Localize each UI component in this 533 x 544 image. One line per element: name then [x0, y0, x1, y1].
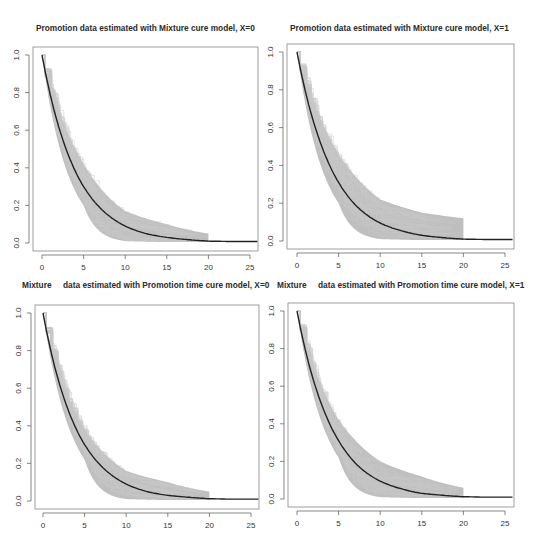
y-tick-label: 0.4: [267, 418, 276, 430]
panel-4-chart: 05101520250.00.20.40.60.81.0: [267, 303, 514, 528]
y-tick-label: 0.8: [14, 344, 23, 356]
x-tick-label: 10: [121, 263, 130, 272]
x-tick-label: 0: [295, 261, 300, 270]
panel-1-plot: 05101520250.00.20.40.60.81.005101520250.…: [0, 0, 533, 544]
y-tick-label: 0.2: [267, 455, 276, 467]
x-axis: 0510152025: [41, 513, 256, 530]
y-tick-label: 0.0: [12, 237, 21, 249]
y-tick-label: 0.6: [267, 380, 276, 392]
y-tick-label: 0.6: [14, 382, 23, 394]
x-tick-label: 5: [336, 261, 341, 270]
x-tick-label: 15: [417, 261, 426, 270]
x-axis: 0510152025: [40, 255, 255, 272]
x-tick-label: 0: [40, 263, 45, 272]
x-axis: 0510152025: [295, 253, 510, 270]
x-tick-label: 25: [247, 521, 256, 530]
x-tick-label: 5: [82, 521, 87, 530]
y-tick-label: 0.2: [266, 197, 275, 209]
y-tick-label: 1.0: [12, 49, 21, 61]
panel-3-chart: 05101520250.00.20.40.60.81.0: [14, 305, 259, 530]
y-tick-label: 0.6: [12, 124, 21, 136]
x-tick-label: 5: [336, 519, 341, 528]
y-tick-label: 0.8: [12, 86, 21, 98]
x-tick-label: 10: [376, 519, 385, 528]
y-tick-label: 0.4: [12, 162, 21, 174]
x-tick-label: 5: [81, 263, 86, 272]
x-axis: 0510152025: [295, 511, 510, 528]
x-tick-label: 15: [163, 521, 172, 530]
x-tick-label: 10: [122, 521, 131, 530]
y-tick-label: 0.6: [266, 121, 275, 133]
x-tick-label: 25: [501, 519, 510, 528]
panel-2-chart: 05101520250.00.20.40.60.81.0: [266, 44, 514, 270]
x-tick-label: 25: [501, 261, 510, 270]
x-tick-label: 10: [376, 261, 385, 270]
x-tick-label: 15: [162, 263, 171, 272]
x-tick-label: 15: [417, 519, 426, 528]
estimated-survival-curve: [43, 313, 259, 499]
y-axis: 0.00.20.40.60.81.0: [266, 46, 283, 247]
x-tick-label: 20: [204, 263, 213, 272]
panel-1-chart: 05101520250.00.20.40.60.81.0: [12, 47, 258, 272]
y-tick-label: 0.2: [12, 199, 21, 211]
x-tick-label: 0: [295, 519, 300, 528]
y-axis: 0.00.20.40.60.81.0: [12, 49, 29, 249]
x-tick-label: 0: [41, 521, 46, 530]
y-tick-label: 0.2: [14, 457, 23, 469]
x-tick-label: 20: [205, 521, 214, 530]
bootstrap-band: [43, 313, 209, 500]
y-tick-label: 0.0: [266, 235, 275, 247]
x-tick-label: 20: [459, 261, 468, 270]
y-tick-label: 0.4: [266, 159, 275, 171]
y-tick-label: 1.0: [266, 46, 275, 58]
y-axis: 0.00.20.40.60.81.0: [267, 305, 284, 505]
y-tick-label: 0.0: [14, 495, 23, 507]
y-tick-label: 0.8: [267, 342, 276, 354]
bootstrap-band: [42, 55, 208, 242]
y-axis: 0.00.20.40.60.81.0: [14, 307, 31, 507]
y-tick-label: 0.8: [266, 84, 275, 96]
y-tick-label: 1.0: [267, 305, 276, 317]
y-tick-label: 1.0: [14, 307, 23, 319]
y-tick-label: 0.0: [267, 493, 276, 505]
x-tick-label: 25: [246, 263, 255, 272]
y-tick-label: 0.4: [14, 420, 23, 432]
x-tick-label: 20: [459, 519, 468, 528]
